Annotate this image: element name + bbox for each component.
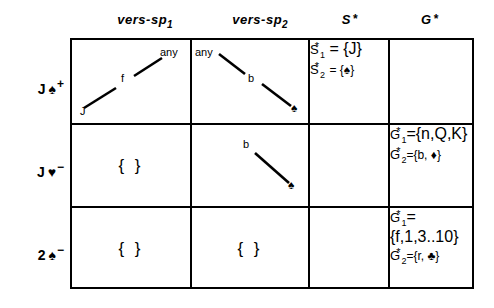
tree-node-j: J	[80, 106, 86, 117]
tree-node-b: b	[248, 73, 254, 84]
g-star-1-expression: G*1={f,1,3..10}	[390, 208, 474, 246]
spade-icon: ♠	[46, 247, 56, 263]
version-space-tree-row2-col2	[192, 125, 308, 206]
column-header-g-star: G*	[395, 12, 465, 27]
column-header-vers-sp-1-label: vers-sp	[117, 12, 167, 27]
s-star-2-value: = {♠}	[329, 63, 354, 77]
g-star-2-value: ={r, ♣}	[406, 249, 439, 263]
row-label-jack-hearts-minus: J♥−	[8, 160, 64, 180]
cell-row3-s-star	[310, 208, 388, 289]
tree-node-b: b	[243, 139, 249, 150]
empty-set-symbol: { }	[72, 125, 190, 206]
spade-icon: ♠	[46, 81, 56, 97]
row-label-rank: 2	[38, 247, 46, 263]
tree-edge-j-f	[84, 88, 116, 108]
g-star-2-asterisk: *	[396, 246, 400, 258]
column-header-g-star-asterisk: *	[432, 12, 439, 26]
row-label-sign: −	[56, 160, 64, 174]
cell-row2-vers-sp-2: b ♠	[192, 125, 308, 206]
tree-edge-f-any	[134, 58, 162, 76]
table-grid: J f any any b ♠ S*1 = {J} S*2 = {♠}	[70, 38, 474, 289]
column-header-s-star-asterisk: *	[351, 12, 358, 26]
cell-row2-g-star: G*1={n,Q,K} G*2={b, ♦}	[390, 125, 474, 206]
tree-node-f: f	[121, 73, 124, 84]
s-star-1-asterisk: *	[315, 40, 319, 52]
cell-row1-g-star	[390, 40, 474, 123]
row-label-two-spades-minus: 2♠−	[8, 243, 64, 263]
s-star-1-value: = {J}	[329, 40, 361, 57]
empty-set-symbol: { }	[192, 208, 308, 289]
cell-row1-vers-sp-2: any b ♠	[192, 40, 308, 123]
column-header-g-star-label: G	[421, 12, 432, 27]
s-star-1-expression: S*1 = {J}	[310, 40, 388, 60]
g-star-2-asterisk: *	[396, 145, 400, 157]
cell-row3-vers-sp-1: { }	[72, 208, 190, 289]
s-star-2-expression: S*2 = {♠}	[310, 60, 388, 80]
empty-set-symbol: { }	[72, 208, 190, 289]
spade-icon: ♠	[288, 179, 294, 191]
s-star-1-subscript: 1	[320, 50, 325, 60]
tree-node-any: any	[160, 47, 178, 58]
column-header-s-star-label: S	[342, 12, 351, 27]
g-star-1-asterisk: *	[396, 208, 400, 220]
cell-row3-vers-sp-2: { }	[192, 208, 308, 289]
column-header-vers-sp-1-subscript: 1	[167, 19, 173, 30]
column-header-vers-sp-2-label: vers-sp	[232, 12, 282, 27]
g-star-2-expression: G*2={r, ♣}	[390, 246, 474, 266]
column-header-s-star: S*	[315, 12, 385, 27]
row-label-sign: −	[56, 243, 64, 257]
row-label-rank: J	[38, 81, 46, 97]
column-header-vers-sp-2: vers-sp2	[205, 12, 315, 30]
row-label-jack-spades-plus: J♠+	[8, 77, 64, 97]
s-star-2-asterisk: *	[315, 60, 319, 72]
g-star-1-asterisk: *	[396, 125, 400, 137]
row-label-sign: +	[56, 77, 64, 91]
g-star-2-value: ={b, ♦}	[406, 148, 441, 162]
cell-row2-s-star	[310, 125, 388, 206]
cell-row1-vers-sp-1: J f any	[72, 40, 190, 123]
g-star-1-value: ={n,Q,K}	[406, 125, 467, 142]
cell-row1-s-star: S*1 = {J} S*2 = {♠}	[310, 40, 388, 123]
g-star-2-expression: G*2={b, ♦}	[390, 145, 474, 165]
tree-edge-b-spade	[255, 153, 289, 183]
tree-edge-any-b	[219, 54, 245, 74]
tree-node-any: any	[195, 47, 213, 58]
version-space-table-figure: vers-sp1 vers-sp2 S* G* J♠+ J♥− 2♠− J f …	[0, 0, 494, 308]
cell-row2-vers-sp-1: { }	[72, 125, 190, 206]
column-header-vers-sp-1: vers-sp1	[90, 12, 200, 30]
s-star-2-subscript: 2	[320, 70, 325, 80]
tree-edge-b-spade	[262, 84, 291, 106]
heart-icon: ♥	[45, 164, 56, 180]
cell-row3-g-star: G*1={f,1,3..10} G*2={r, ♣}	[390, 208, 474, 289]
column-header-vers-sp-2-subscript: 2	[282, 19, 288, 30]
spade-icon: ♠	[291, 102, 297, 114]
g-star-1-expression: G*1={n,Q,K}	[390, 125, 474, 145]
row-label-rank: J	[37, 164, 45, 180]
